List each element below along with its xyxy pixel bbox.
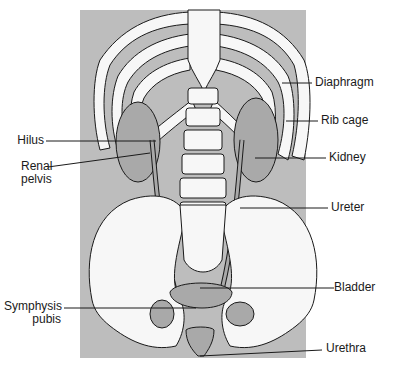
label-kidney-text: Kidney (329, 150, 366, 164)
label-symphysis-pubis-line2: pubis (4, 313, 61, 326)
label-bladder-text: Bladder (334, 280, 375, 294)
label-diaphragm-text: Diaphragm (315, 75, 374, 89)
label-hilus: Hilus (6, 134, 44, 147)
label-symphysis-pubis: Symphysis pubis (4, 300, 61, 326)
label-rib-cage: Rib cage (321, 114, 368, 127)
label-ureter-text: Ureter (331, 200, 364, 214)
label-rib-cage-text: Rib cage (321, 113, 368, 127)
obturator-foramen-right (226, 302, 254, 326)
label-urethra-text: Urethra (326, 341, 366, 355)
label-diaphragm: Diaphragm (315, 76, 374, 89)
label-urethra: Urethra (326, 342, 366, 355)
label-renal-pelvis: Renal pelvis (21, 160, 52, 186)
label-renal-pelvis-line2: pelvis (21, 173, 52, 186)
label-kidney: Kidney (329, 151, 366, 164)
label-hilus-text: Hilus (17, 133, 44, 147)
label-bladder: Bladder (334, 281, 375, 294)
obturator-foramen-left (150, 300, 174, 328)
label-ureter: Ureter (331, 201, 364, 214)
